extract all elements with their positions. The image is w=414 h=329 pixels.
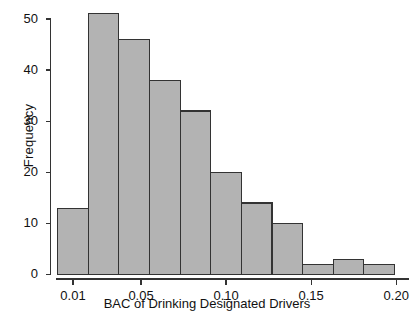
y-axis-tick-label: 50 [4, 11, 38, 26]
x-axis-tick-label: 0.05 [111, 288, 171, 303]
x-axis-tick-label: 0.10 [196, 288, 256, 303]
histogram-bar [333, 259, 364, 274]
histogram-bar [119, 39, 150, 274]
histogram-bar [180, 111, 211, 275]
x-axis-tick-label: 0.01 [43, 288, 103, 303]
x-axis-tick-label: 0.20 [366, 288, 414, 303]
y-axis-tick-label: 0 [4, 266, 38, 281]
histogram-bar [211, 172, 242, 274]
y-axis-tick-label: 30 [4, 113, 38, 128]
bar-group [58, 14, 395, 275]
histogram-bar [88, 14, 119, 275]
histogram-bar [303, 264, 334, 274]
histogram-bar [272, 223, 303, 274]
histogram-bar [364, 264, 395, 274]
histogram-bar [150, 80, 181, 274]
y-axis-tick-label: 10 [4, 215, 38, 230]
x-axis-tick-label: 0.15 [281, 288, 341, 303]
histogram-figure: Frequency BAC of Drinking Designated Dri… [0, 0, 414, 329]
histogram-bar [58, 208, 89, 274]
histogram-bar [241, 203, 272, 275]
y-axis-tick-label: 40 [4, 62, 38, 77]
y-axis-tick-label: 20 [4, 164, 38, 179]
plot-canvas [0, 0, 414, 329]
